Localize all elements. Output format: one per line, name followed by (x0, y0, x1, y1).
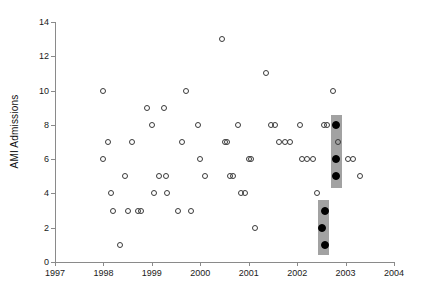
x-tick-label: 1999 (142, 269, 162, 278)
x-tick-label: 1998 (93, 269, 113, 278)
data-point-open (188, 208, 194, 214)
x-tick-label: 2000 (190, 269, 210, 278)
data-point-filled (332, 155, 340, 163)
data-point-open (330, 88, 336, 94)
x-tick-mark (346, 262, 347, 266)
data-point-open (252, 225, 258, 231)
y-tick-label: 2 (44, 223, 49, 232)
data-point-open (357, 173, 363, 179)
y-tick-label: 12 (39, 52, 49, 61)
data-point-open (161, 105, 167, 111)
data-point-open (117, 242, 123, 248)
y-tick-label: 4 (44, 189, 49, 198)
x-tick-mark (297, 262, 298, 266)
data-point-filled (321, 241, 329, 249)
data-point-open (105, 139, 111, 145)
data-point-open (129, 139, 135, 145)
y-axis-title: AMI Admissions (6, 0, 24, 262)
x-tick-label: 2004 (384, 269, 404, 278)
data-point-open (144, 105, 150, 111)
data-point-open (314, 190, 320, 196)
data-point-open (197, 156, 203, 162)
data-point-open (151, 190, 157, 196)
data-point-open (100, 88, 106, 94)
x-tick-mark (55, 262, 56, 266)
data-point-open (175, 208, 181, 214)
x-tick-mark (152, 262, 153, 266)
data-point-open (110, 208, 116, 214)
data-point-open (156, 173, 162, 179)
x-tick-mark (249, 262, 250, 266)
data-point-open (164, 190, 170, 196)
data-point-open (138, 208, 144, 214)
x-tick-mark (394, 262, 395, 266)
data-point-open (324, 122, 330, 128)
data-point-open (235, 122, 241, 128)
data-point-open (350, 156, 356, 162)
y-tick-label: 0 (44, 258, 49, 267)
data-point-open (108, 190, 114, 196)
x-tick-mark (103, 262, 104, 266)
data-point-open (163, 173, 169, 179)
data-point-open (230, 173, 236, 179)
data-point-open (122, 173, 128, 179)
data-point-open (242, 190, 248, 196)
x-axis-ticks: 19971998199920002001200220032004 (55, 262, 394, 292)
data-point-open (276, 139, 282, 145)
scatter-plot-figure: AMI Admissions 02468101214 1997199819992… (0, 0, 426, 301)
y-axis-title-text: AMI Admissions (10, 94, 21, 168)
x-tick-mark (200, 262, 201, 266)
data-point-open (195, 122, 201, 128)
data-point-filled (318, 224, 326, 232)
data-point-open (219, 36, 225, 42)
y-tick-label: 8 (44, 120, 49, 129)
data-point-open (297, 122, 303, 128)
data-point-open (179, 139, 185, 145)
data-point-open (125, 208, 131, 214)
data-point-filled (332, 172, 340, 180)
data-point-open (183, 88, 189, 94)
data-point-open (287, 139, 293, 145)
data-point-open (202, 173, 208, 179)
x-tick-label: 2003 (336, 269, 356, 278)
y-tick-label: 6 (44, 155, 49, 164)
data-point-open (248, 156, 254, 162)
y-tick-label: 14 (39, 18, 49, 27)
data-point-open (100, 156, 106, 162)
data-point-open (272, 122, 278, 128)
x-tick-label: 1997 (45, 269, 65, 278)
x-tick-label: 2001 (239, 269, 259, 278)
x-tick-label: 2002 (287, 269, 307, 278)
data-point-open (149, 122, 155, 128)
data-point-filled (332, 121, 340, 129)
data-point-open (335, 139, 341, 145)
data-point-open (224, 139, 230, 145)
plot-area (55, 22, 394, 262)
data-point-open (263, 70, 269, 76)
data-point-open (310, 156, 316, 162)
y-tick-label: 10 (39, 86, 49, 95)
data-point-filled (321, 207, 329, 215)
